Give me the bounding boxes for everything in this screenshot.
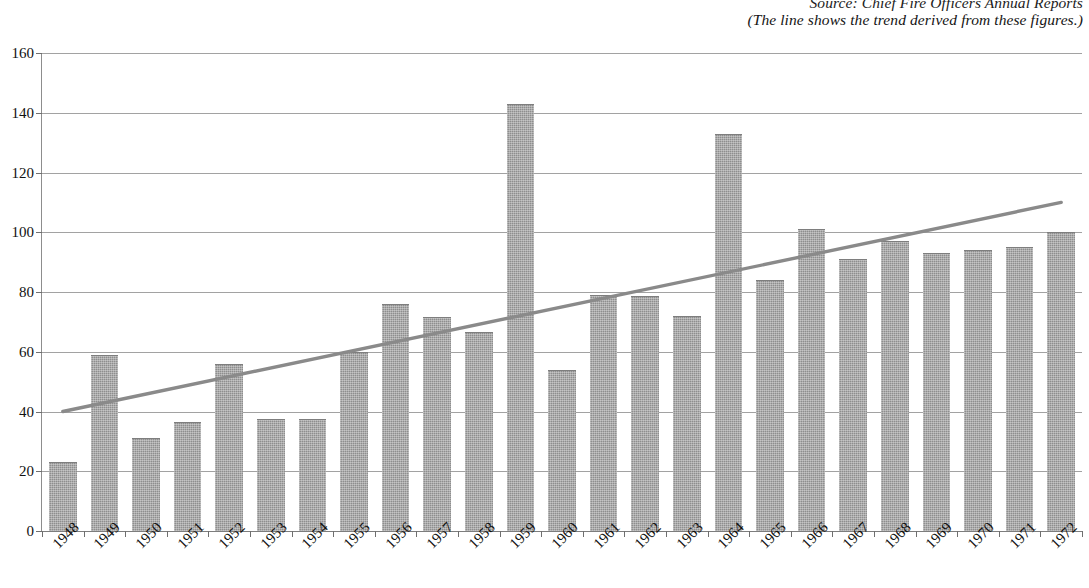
y-axis-label-20: 20 [0, 464, 34, 479]
y-axis-labels: 020406080100120140160 [0, 0, 34, 588]
bar-1968 [881, 241, 908, 531]
x-axis-labels: 1948194919501951195219531954195519561957… [41, 537, 1081, 588]
bar-1970 [964, 250, 991, 531]
bar-1971 [1006, 247, 1033, 531]
bar-1952 [215, 364, 242, 531]
plot-area: 020406080100120140160 194819491950195119… [0, 0, 1089, 588]
bar-1959 [507, 104, 534, 531]
bar-series [42, 53, 1082, 531]
y-axis-label-100: 100 [0, 225, 34, 240]
bar-1964 [715, 134, 742, 531]
bar-1951 [174, 422, 201, 531]
y-axis-label-160: 160 [0, 46, 34, 61]
bar-1962 [631, 296, 658, 531]
chart-figure: Source: Chief Fire Officers Annual Repor… [0, 0, 1089, 588]
y-axis-label-80: 80 [0, 285, 34, 300]
bar-1966 [798, 229, 825, 531]
y-axis-label-40: 40 [0, 404, 34, 419]
bar-1963 [673, 316, 700, 531]
bar-1955 [340, 352, 367, 531]
bar-1967 [839, 259, 866, 531]
y-axis-label-140: 140 [0, 105, 34, 120]
bar-1949 [91, 355, 118, 531]
bar-1965 [756, 280, 783, 531]
x-tick-end [1082, 531, 1083, 537]
bar-1954 [299, 419, 326, 531]
y-axis-label-0: 0 [0, 524, 34, 539]
bar-1957 [423, 317, 450, 531]
y-axis-label-120: 120 [0, 165, 34, 180]
bar-1956 [382, 304, 409, 531]
bar-1961 [590, 295, 617, 531]
bar-1958 [465, 332, 492, 531]
bar-1972 [1047, 232, 1074, 531]
bar-1950 [132, 438, 159, 531]
y-axis-label-60: 60 [0, 344, 34, 359]
bar-1969 [923, 253, 950, 531]
bar-1960 [548, 370, 575, 531]
plot-canvas [41, 53, 1082, 532]
bar-1953 [257, 419, 284, 531]
